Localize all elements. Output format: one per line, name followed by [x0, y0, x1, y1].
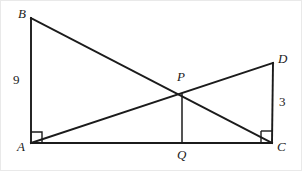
- vertex-label-A: A: [17, 140, 25, 153]
- segment-AD: [31, 63, 273, 143]
- geometry-figure: B A D C P Q 9 3: [0, 0, 302, 171]
- figure-canvas: [0, 0, 302, 171]
- length-label-CD: 3: [279, 95, 286, 108]
- length-label-AB: 9: [13, 73, 20, 86]
- vertex-label-D: D: [278, 52, 287, 65]
- segment-BC: [31, 18, 272, 143]
- vertex-label-Q: Q: [177, 148, 186, 161]
- vertex-label-C: C: [277, 140, 286, 153]
- vertex-label-B: B: [18, 7, 26, 20]
- segment-CD: [272, 63, 273, 143]
- vertex-label-P: P: [177, 70, 185, 83]
